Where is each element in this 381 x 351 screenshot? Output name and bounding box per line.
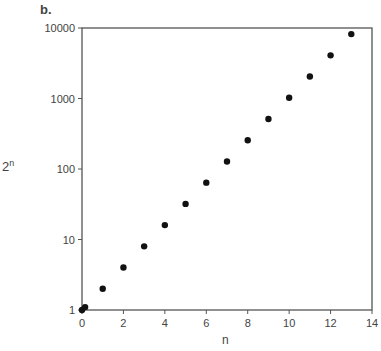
data-point [327,52,333,58]
data-point [182,201,188,207]
data-point [224,158,230,164]
x-tick-label: 6 [203,317,209,329]
x-tick-label: 14 [366,317,378,329]
y-tick-label: 10 [63,234,75,246]
x-tick-label: 10 [283,317,295,329]
y-tick-label: 1000 [51,93,75,105]
y-tick-label: 100 [57,163,75,175]
x-tick-label: 8 [245,317,251,329]
data-point [307,73,313,79]
data-point [265,116,271,122]
data-point [120,264,126,270]
scatter-plot: 02468101214110100100010000 [0,0,381,351]
data-point [286,95,292,101]
data-point [245,137,251,143]
data-point [162,222,168,228]
data-point [348,31,354,37]
y-tick-label: 1 [69,304,75,316]
x-tick-label: 2 [120,317,126,329]
x-tick-label: 0 [79,317,85,329]
y-tick-label: 10000 [44,22,75,34]
data-point [82,304,88,310]
data-point [203,179,209,185]
x-tick-label: 4 [162,317,168,329]
data-point [100,286,106,292]
x-tick-label: 12 [324,317,336,329]
data-point [141,243,147,249]
